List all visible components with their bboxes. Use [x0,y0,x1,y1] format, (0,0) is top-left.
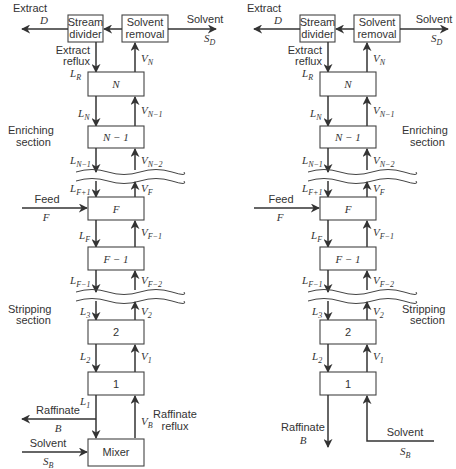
extraction-cascade-diagrams: Stream divider Solvent removal Extract D… [0,0,456,469]
stream-divider-label-2: divider [69,28,102,40]
enriching-section-label-2: section [410,136,445,148]
VN2-label: VN−2 [373,154,394,169]
LF-label: LF [78,229,90,244]
solvent-removal-label-1: Solvent [127,16,164,28]
LN-label: LN [309,107,322,122]
VN2-label: VN−2 [141,154,162,169]
stage-2-label: 2 [113,326,119,338]
extract-label: Extract [13,2,47,14]
extract-reflux-label-2: reflux [295,55,322,67]
stage-N-1-label: N − 1 [334,131,361,143]
enriching-section-label-1: Enriching [402,124,448,136]
L1-label: L1 [79,395,90,410]
extract-var: D [273,14,282,26]
diagram-right: Stream divider Solvent removal Extract D… [247,2,452,460]
VN1-label: VN−1 [373,104,394,119]
enriching-section-label-2: section [16,136,51,148]
VF-label: VF [373,182,385,197]
break-wave-1 [76,170,185,175]
raffinate-reflux-label-2: reflux [162,420,189,432]
VF1-label: VF−1 [373,226,394,241]
V2-label: V2 [373,305,384,320]
solvent-in-label: Solvent [387,426,424,438]
solvent-out-var: SD [431,32,443,47]
L3-label: L3 [79,305,90,320]
raffinate-reflux-label-1: Raffinate [153,408,197,420]
break-wave-4 [76,299,185,304]
VF1-label: VF−1 [141,226,162,241]
L2-label: L2 [79,350,90,365]
feed-var: F [42,211,50,223]
LF1m-label: LF−1 [69,274,90,289]
V1-label: V1 [373,350,384,365]
LF1p-label: LF+1 [301,182,322,197]
break-wave-4 [308,299,417,304]
feed-label: Feed [34,193,59,205]
LN1-label: LN−1 [69,154,91,169]
stage-2-label: 2 [345,326,351,338]
diagram-left: Stream divider Solvent removal Extract D… [8,2,223,469]
stage-F-1-label: F − 1 [334,253,360,265]
stripping-section-label-2: section [410,314,445,326]
extract-reflux-var: LR [69,67,81,82]
enriching-section-label-1: Enriching [8,124,54,136]
stage-N-label: N [343,78,352,90]
solvent-removal-label-1: Solvent [359,16,396,28]
VN1-label: VN−1 [141,104,162,119]
V1-label: V1 [141,350,152,365]
extract-var: D [39,14,48,26]
L2-label: L2 [311,350,322,365]
solvent-in-var: SB [400,445,411,460]
stream-divider-label-1: Stream [68,16,103,28]
break-wave-2 [76,179,185,184]
stripping-section-label-2: section [16,314,51,326]
stream-divider-label-2: divider [301,28,334,40]
VN-label: VN [373,52,386,67]
stage-1-label: 1 [113,378,119,390]
solvent-out-var: SD [204,32,216,47]
LF-label: LF [310,229,322,244]
V2-label: V2 [141,305,152,320]
L3-label: L3 [311,305,322,320]
LF1p-label: LF+1 [69,182,90,197]
VF-label: VF [141,182,153,197]
feed-label: Feed [268,193,293,205]
mixer-label: Mixer [103,446,130,458]
stage-F-label: F [112,203,120,215]
feed-var: F [276,211,284,223]
LN-label: LN [77,107,90,122]
break-wave-3 [76,290,185,295]
stage-F-1-label: F − 1 [102,253,128,265]
extract-reflux-var: LR [301,67,313,82]
raffinate-label: Raffinate [281,421,325,433]
raffinate-var: B [300,434,307,446]
solvent-out-label: Solvent [416,13,453,25]
solvent-removal-label-2: removal [357,28,396,40]
stream-divider-label-1: Stream [300,16,335,28]
solvent-out-label: Solvent [187,13,224,25]
solvent-removal-label-2: removal [125,28,164,40]
break-wave-3 [308,290,417,295]
raffinate-label: Raffinate [36,404,80,416]
solvent-in-var: SB [43,455,54,469]
VF2-label: VF−2 [141,274,162,289]
break-wave-1 [308,170,417,175]
VF2-label: VF−2 [373,274,394,289]
extract-reflux-label-2: reflux [63,55,90,67]
break-wave-2 [308,179,417,184]
stage-F-label: F [344,203,352,215]
LN1-label: LN−1 [301,154,323,169]
stage-1-label: 1 [345,378,351,390]
stage-N-1-label: N − 1 [102,131,129,143]
solvent-in-label: Solvent [30,437,67,449]
VB-label: VB [141,415,153,430]
LF1m-label: LF−1 [301,274,322,289]
raffinate-var: B [55,422,62,434]
VN-label: VN [141,52,154,67]
extract-label: Extract [247,2,281,14]
stage-N-label: N [111,78,120,90]
